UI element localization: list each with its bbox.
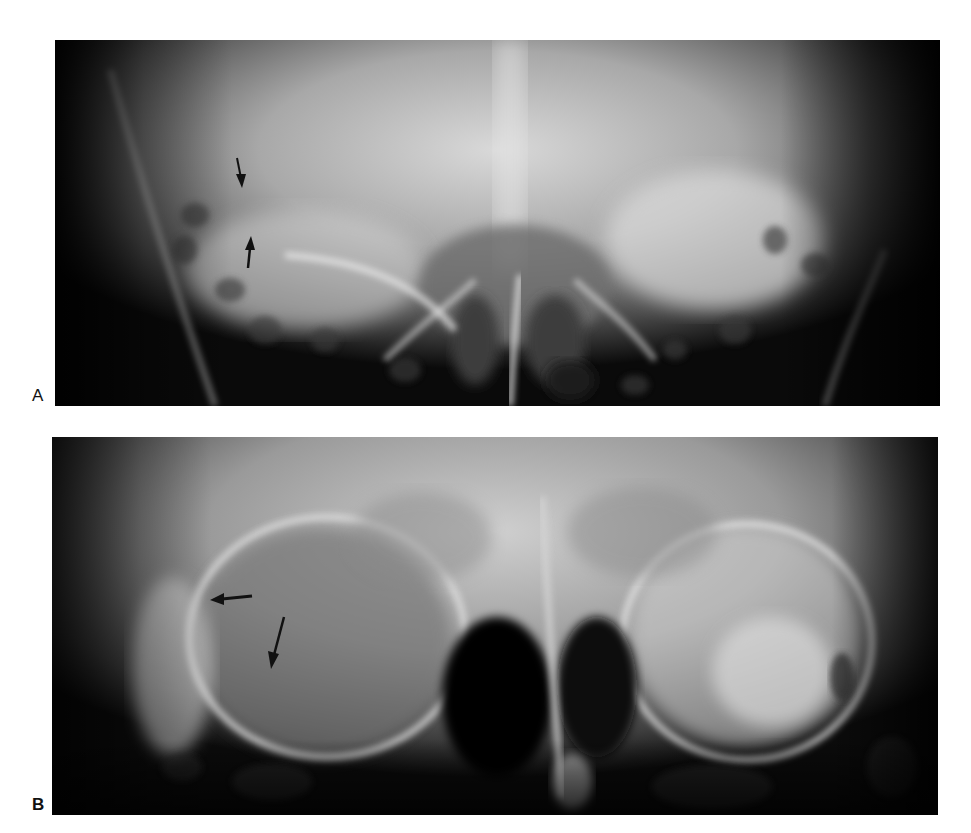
radiograph-image-a — [55, 40, 940, 406]
radiograph-image-b — [52, 437, 938, 815]
panel-label-a: A — [32, 386, 43, 406]
radiograph-panel-b — [52, 437, 938, 815]
panel-label-b: B — [32, 795, 44, 815]
radiograph-panel-a — [55, 40, 940, 406]
